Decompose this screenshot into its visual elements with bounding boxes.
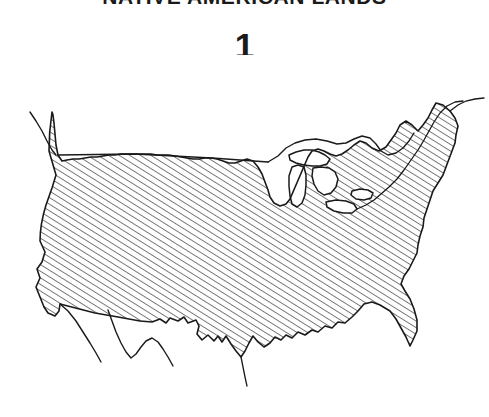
figure-title: NATIVE AMERICAN LANDS [0,0,489,7]
figure-container: NATIVE AMERICAN LANDS 1 [0,0,489,417]
hatched-territory-fill [0,55,489,417]
map-drawing [0,55,489,417]
united-states-map [0,55,489,417]
